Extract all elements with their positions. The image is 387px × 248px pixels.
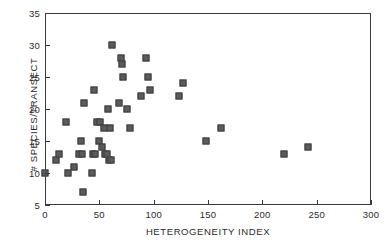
data-point	[115, 99, 122, 106]
scatter-chart: 5101520253035 050100150200250300 HETEROG…	[0, 0, 387, 248]
data-point	[105, 106, 112, 113]
x-axis-tick-label: 150	[188, 209, 228, 220]
data-point	[52, 157, 59, 164]
data-point	[90, 86, 97, 93]
data-point	[78, 150, 85, 157]
data-point	[175, 93, 182, 100]
data-point	[304, 144, 311, 151]
data-point	[143, 54, 150, 61]
data-point	[108, 157, 115, 164]
data-point	[80, 189, 87, 196]
data-point	[281, 150, 288, 157]
y-axis-tick	[45, 141, 50, 142]
data-point	[81, 99, 88, 106]
data-point	[180, 80, 187, 87]
y-axis-tick	[45, 45, 50, 46]
y-axis-tick-label: 35	[14, 8, 40, 19]
x-axis-tick	[154, 200, 155, 205]
x-axis-tick-label: 100	[134, 209, 174, 220]
data-point	[120, 74, 127, 81]
y-axis-tick	[45, 13, 50, 14]
data-point	[145, 74, 152, 81]
x-axis-tick	[208, 200, 209, 205]
x-axis-tick	[317, 200, 318, 205]
data-point	[71, 163, 78, 170]
data-point	[88, 170, 95, 177]
plot-area	[45, 13, 371, 205]
y-axis-tick	[45, 109, 50, 110]
data-point	[119, 61, 126, 68]
x-axis-tick-label: 250	[297, 209, 337, 220]
x-axis-tick	[262, 200, 263, 205]
x-axis-tick-label: 50	[79, 209, 119, 220]
y-axis-title: # SPECIES/TRANSECT	[28, 19, 39, 211]
data-point	[218, 125, 225, 132]
data-point	[77, 138, 84, 145]
data-point	[64, 170, 71, 177]
data-point	[126, 125, 133, 132]
data-point	[56, 150, 63, 157]
y-axis-tick	[45, 173, 50, 174]
data-point	[202, 138, 209, 145]
data-point	[137, 93, 144, 100]
x-axis-tick	[99, 200, 100, 205]
data-point	[109, 42, 116, 49]
data-point	[62, 118, 69, 125]
x-axis-title: HETEROGENEITY INDEX	[45, 226, 371, 237]
x-axis-tick-label: 200	[242, 209, 282, 220]
x-axis-tick	[45, 200, 46, 205]
x-axis-tick	[371, 200, 372, 205]
y-axis-tick	[45, 205, 50, 206]
x-axis-tick-label: 300	[351, 209, 387, 220]
data-point	[123, 106, 130, 113]
data-point	[91, 150, 98, 157]
y-axis-tick	[45, 77, 50, 78]
data-point	[147, 86, 154, 93]
x-axis-tick-label: 0	[25, 209, 65, 220]
data-point	[107, 125, 114, 132]
